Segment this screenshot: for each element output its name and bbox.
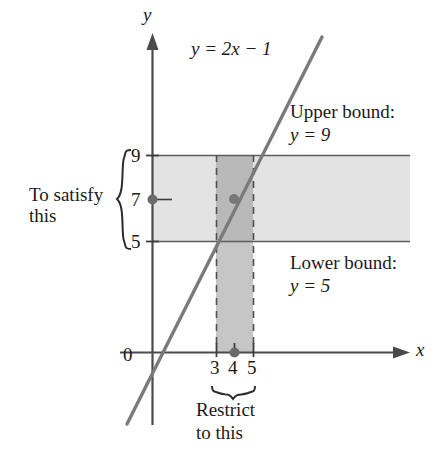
lower-bound-label-line2: y = 5 [290,275,330,296]
lower-bound-label-line1: Lower bound: [290,252,397,273]
y-axis-label: y [143,4,151,25]
math-figure: y x 0 9 7 5 3 4 5 y = 2x − 1 Upper bound… [0,0,435,468]
x-tick-label-5: 5 [247,357,257,378]
x-axis-label: x [416,339,424,360]
y-axis-arrow [147,33,159,50]
dot-x-4 [230,348,240,358]
to-satisfy-label-line2: this [29,205,56,226]
dot-y-7 [148,195,158,205]
y-tick-label-5: 5 [131,231,141,252]
y-tick-label-7: 7 [131,189,141,210]
to-satisfy-brace [117,150,131,249]
x-tick-label-4: 4 [228,357,238,378]
x-tick-label-3: 3 [210,357,220,378]
upper-bound-label-line2: y = 9 [290,124,330,145]
y-tick-label-9: 9 [131,145,141,166]
horizontal-band-region [152,155,410,241]
restrict-brace [212,386,255,399]
origin-label: 0 [123,344,133,365]
line-equation-label: y = 2x − 1 [191,38,272,59]
to-satisfy-label-line1: To satisfy [29,184,103,205]
graph-canvas [0,0,435,468]
upper-bound-label-line1: Upper bound: [290,101,395,122]
dot-point-4-7 [229,194,239,204]
restrict-label-line2: to this [196,422,243,443]
restrict-label-line1: Restrict [196,399,255,420]
x-axis-arrow [393,347,410,359]
